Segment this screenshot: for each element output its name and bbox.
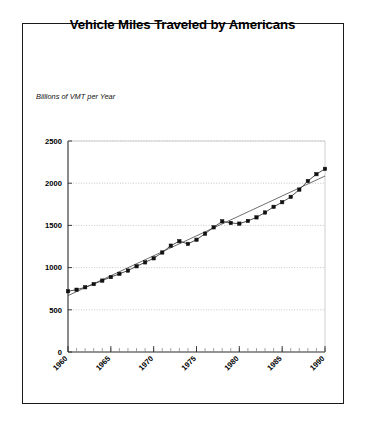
data-point-marker xyxy=(83,286,86,289)
chart-plot: 05001000150020002500 1960196519701975198… xyxy=(0,0,365,425)
data-point-marker xyxy=(306,179,309,182)
data-point-marker xyxy=(229,221,232,224)
data-point-marker xyxy=(238,222,241,225)
data-point-marker xyxy=(263,211,266,214)
data-series-markers xyxy=(66,167,326,293)
axis-lines-group xyxy=(68,141,325,352)
y-tick-label: 1000 xyxy=(45,263,62,272)
data-point-marker xyxy=(298,188,301,191)
data-series-line xyxy=(68,169,325,291)
data-point-marker xyxy=(272,205,275,208)
data-polyline xyxy=(68,169,325,291)
y-tick-label: 2000 xyxy=(45,179,62,188)
data-point-marker xyxy=(323,167,326,170)
y-tick-labels-group: 05001000150020002500 xyxy=(45,137,62,357)
data-point-marker xyxy=(169,244,172,247)
data-point-marker xyxy=(92,282,95,285)
y-major-ticks-group xyxy=(68,141,72,352)
x-tick-labels-group: 1960196519701975198019851990 xyxy=(51,354,326,373)
data-point-marker xyxy=(221,220,224,223)
y-tick-label: 500 xyxy=(49,306,62,315)
data-point-marker xyxy=(126,269,129,272)
trend-line xyxy=(68,176,325,296)
data-point-marker xyxy=(255,216,258,219)
y-tick-label: 1500 xyxy=(45,221,62,230)
x-tick-label: 1960 xyxy=(51,354,69,372)
data-point-marker xyxy=(161,251,164,254)
data-point-marker xyxy=(143,261,146,264)
x-tick-label: 1980 xyxy=(222,354,240,372)
data-point-marker xyxy=(186,242,189,245)
data-point-marker xyxy=(246,219,249,222)
x-tick-label: 1970 xyxy=(137,354,155,372)
data-point-marker xyxy=(118,272,121,275)
data-point-marker xyxy=(203,232,206,235)
data-point-marker xyxy=(66,290,69,293)
data-point-marker xyxy=(315,172,318,175)
x-tick-label: 1975 xyxy=(180,354,199,373)
data-point-marker xyxy=(178,239,181,242)
data-point-marker xyxy=(101,279,104,282)
x-tick-label: 1990 xyxy=(308,354,326,372)
data-point-marker xyxy=(289,195,292,198)
data-point-marker xyxy=(135,265,138,268)
trend-polyline xyxy=(68,176,325,296)
data-point-marker xyxy=(152,257,155,260)
data-point-marker xyxy=(212,226,215,229)
data-point-marker xyxy=(109,275,112,278)
data-point-marker xyxy=(280,200,283,203)
data-point-marker xyxy=(75,288,78,291)
x-major-ticks-group xyxy=(68,346,325,352)
y-tick-label: 2500 xyxy=(45,137,62,146)
x-tick-label: 1965 xyxy=(94,354,113,373)
gridlines-group xyxy=(68,141,325,310)
data-point-marker xyxy=(195,238,198,241)
x-tick-label: 1985 xyxy=(265,354,284,373)
